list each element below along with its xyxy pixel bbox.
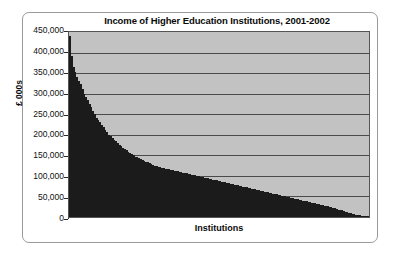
y-axis-tick-label: 450,000 (6, 25, 64, 35)
y-axis-tick-label: 250,000 (6, 109, 64, 119)
y-axis-tick-label: 100,000 (6, 171, 64, 181)
y-axis-tick-mark (64, 219, 68, 220)
y-axis-tick-label: 400,000 (6, 46, 64, 56)
y-axis-tick-mark (64, 156, 68, 157)
y-axis-tick-mark (64, 198, 68, 199)
plot-area (68, 31, 370, 218)
y-axis-tick-mark (64, 115, 68, 116)
y-axis-tick-mark (64, 135, 68, 136)
y-axis-tick-label: 350,000 (6, 67, 64, 77)
chart-title: Income of Higher Education Institutions,… (60, 15, 374, 26)
y-axis-tick-label: 50,000 (6, 192, 64, 202)
x-axis-title: Institutions (68, 223, 370, 233)
y-axis-tick-mark (64, 73, 68, 74)
y-axis-title: £ 000s (14, 80, 24, 106)
y-axis-tick-label: 0 (6, 213, 64, 223)
bar (367, 216, 369, 217)
y-axis-tick-label: 150,000 (6, 150, 64, 160)
y-axis-tick-mark (64, 31, 68, 32)
chart-figure: Income of Higher Education Institutions,… (0, 0, 396, 256)
y-axis-tick-mark (64, 177, 68, 178)
y-axis-tick-mark (64, 94, 68, 95)
bar-series (69, 32, 369, 217)
y-axis-tick-label: 200,000 (6, 129, 64, 139)
y-axis-tick-labels: 450,000400,000350,000300,000250,000200,0… (4, 0, 64, 256)
y-axis-tick-mark (64, 52, 68, 53)
